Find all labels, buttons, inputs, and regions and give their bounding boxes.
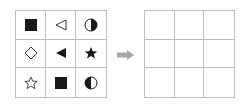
source-cell-3-1 bbox=[16, 68, 46, 97]
arrow-right-icon bbox=[117, 50, 134, 60]
target-grid bbox=[144, 10, 235, 98]
source-cell-2-3 bbox=[76, 40, 106, 69]
source-cell-1-1 bbox=[16, 11, 46, 40]
target-cell-2-2[interactable] bbox=[175, 40, 205, 69]
filled-square-icon bbox=[55, 77, 67, 89]
source-cell-3-3 bbox=[76, 68, 106, 97]
target-cell-1-3[interactable] bbox=[204, 11, 234, 40]
half-circle-left-filled-icon bbox=[84, 76, 98, 90]
target-cell-3-2[interactable] bbox=[175, 68, 205, 97]
half-circle-right-filled-icon bbox=[84, 18, 98, 32]
source-cell-1-2 bbox=[46, 11, 76, 40]
outline-diamond-icon bbox=[24, 46, 38, 60]
target-cell-1-1[interactable] bbox=[145, 11, 175, 40]
outline-star-icon bbox=[24, 76, 38, 90]
filled-triangle-left-icon bbox=[55, 47, 67, 59]
target-cell-3-3[interactable] bbox=[204, 68, 234, 97]
source-cell-3-2 bbox=[46, 68, 76, 97]
source-cell-2-1 bbox=[16, 40, 46, 69]
filled-square-icon bbox=[25, 19, 37, 31]
target-cell-2-3[interactable] bbox=[204, 40, 234, 69]
source-cell-1-3 bbox=[76, 11, 106, 40]
source-grid bbox=[15, 10, 107, 98]
outline-triangle-left-icon bbox=[55, 19, 67, 31]
target-cell-2-1[interactable] bbox=[145, 40, 175, 69]
target-cell-1-2[interactable] bbox=[175, 11, 205, 40]
target-cell-3-1[interactable] bbox=[145, 68, 175, 97]
source-cell-2-2 bbox=[46, 40, 76, 69]
filled-star-icon bbox=[84, 46, 98, 60]
